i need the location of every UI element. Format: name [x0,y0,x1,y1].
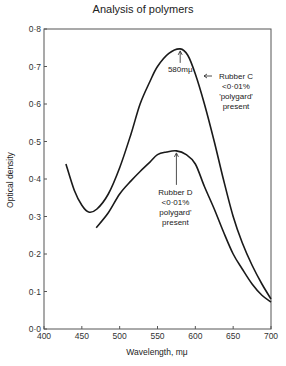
x-tick-label: 450 [75,331,89,341]
y-tick-label: 0·5 [29,137,42,147]
y-tick-label: 0·7 [29,62,42,72]
annotation-rubber-c: present [223,102,250,111]
annotation-rubber-c: 'polygard' [219,92,253,101]
y-tick-label: 0·2 [29,249,42,259]
x-axis-label: Wavelength, mμ [126,347,187,357]
x-tick-label: 500 [113,331,127,341]
y-tick-label: 0·8 [29,24,42,34]
y-tick-label: 0·1 [29,287,42,297]
y-tick-label: 0·4 [29,174,42,184]
annotation-rubber-c: Rubber C [219,72,253,81]
x-tick-label: 700 [264,331,278,341]
chart-plot: 0·00·10·20·30·40·50·60·70·8 400450500550… [0,0,286,366]
x-tick-label: 400 [37,331,51,341]
x-tick-label: 650 [226,331,240,341]
y-tick-label: 0·3 [29,212,42,222]
y-tick-label: 0·6 [29,99,42,109]
annotation-rubber-d: Rubber D [158,188,192,197]
annotation-rubber-d: <0·01% [162,198,190,207]
annotation-580: 580mμ [168,65,193,74]
x-tick-label: 600 [188,331,202,341]
annotation-rubber-c: <0·01% [222,82,250,91]
y-axis-label: Optical density [5,151,15,207]
x-axis: 400450500550600650700 [37,326,278,341]
annotation-rubber-d: polygard' [159,208,192,217]
annotation-rubber-d: present [162,218,189,227]
annotations: 580mμRubber C<0·01%'polygard'presentRubb… [158,51,253,227]
x-tick-label: 550 [150,331,164,341]
